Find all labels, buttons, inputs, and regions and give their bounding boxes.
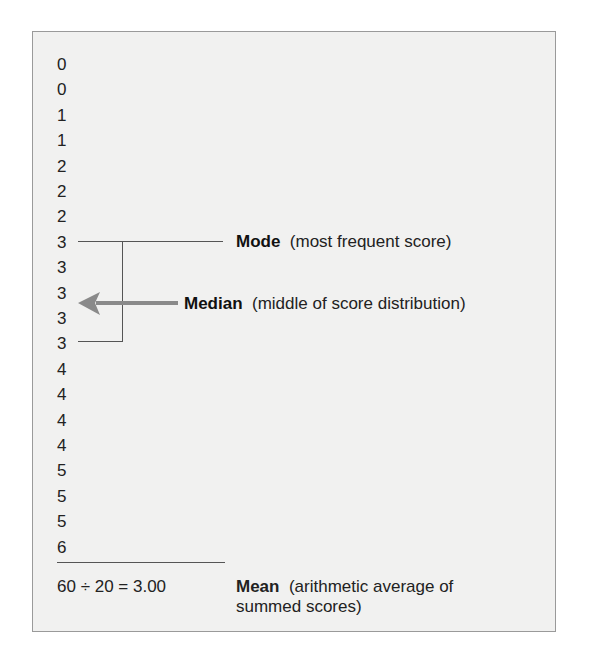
score-item: 3: [57, 284, 66, 304]
score-item: 6: [57, 538, 66, 558]
median-description: (middle of score distribution): [252, 294, 466, 313]
score-item: 5: [57, 461, 66, 481]
score-item: 4: [57, 411, 66, 431]
score-item: 3: [57, 258, 66, 278]
score-item: 4: [57, 385, 66, 405]
mode-description: (most frequent score): [290, 232, 452, 251]
median-arrow-icon: [78, 290, 178, 316]
score-item: 1: [57, 106, 66, 126]
score-item: 3: [57, 334, 66, 354]
score-item: 5: [57, 512, 66, 532]
score-item: 4: [57, 360, 66, 380]
score-item: 2: [57, 157, 66, 177]
score-item: 3: [57, 233, 66, 253]
mode-label: Mode (most frequent score): [236, 232, 451, 252]
median-label: Median (middle of score distribution): [184, 294, 466, 314]
score-item: 5: [57, 487, 66, 507]
mode-term: Mode: [236, 232, 280, 251]
median-term: Median: [184, 294, 243, 313]
score-item: 2: [57, 207, 66, 227]
sum-line: [57, 562, 225, 563]
score-item: 0: [57, 55, 66, 75]
score-item: 1: [57, 131, 66, 151]
bracket-bottom-line: [78, 341, 123, 342]
mean-label: Mean (arithmetic average of summed score…: [236, 577, 476, 617]
mean-term: Mean: [236, 577, 279, 596]
score-item: 0: [57, 80, 66, 100]
diagram-panel: [32, 31, 556, 632]
mean-formula: 60 ÷ 20 = 3.00: [57, 577, 166, 597]
score-item: 3: [57, 309, 66, 329]
score-item: 2: [57, 182, 66, 202]
score-item: 4: [57, 436, 66, 456]
mode-leader-line: [78, 241, 223, 242]
